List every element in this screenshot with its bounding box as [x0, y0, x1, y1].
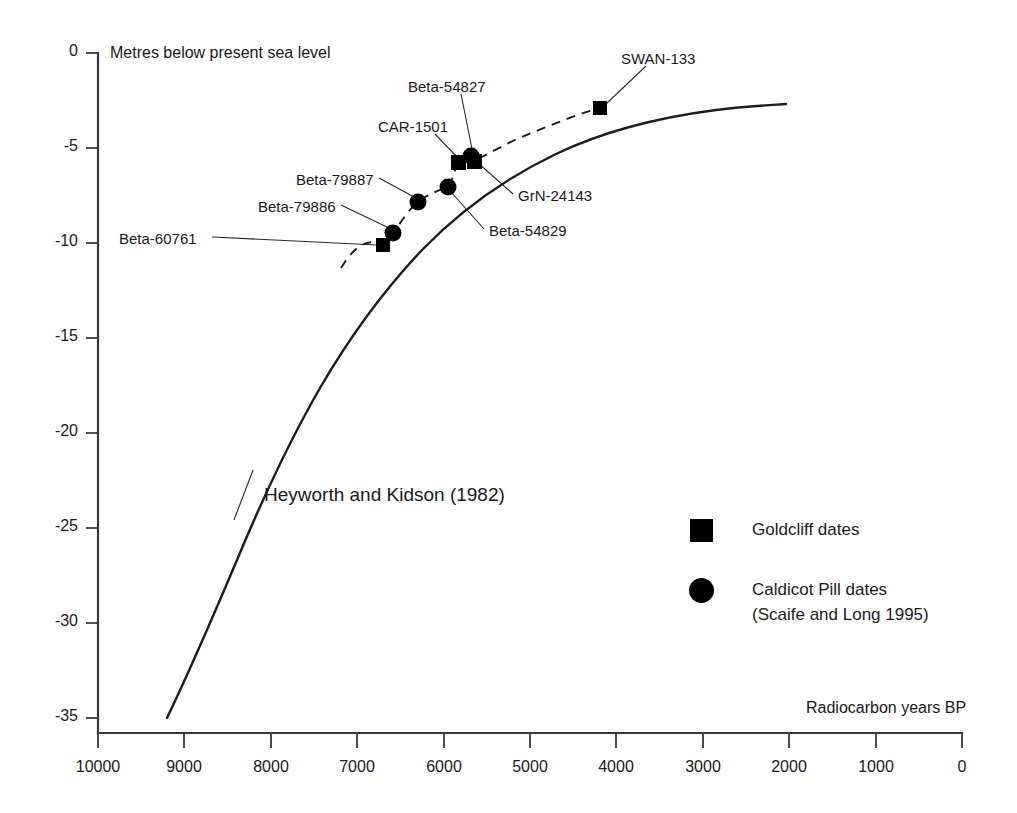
caldicot-pill-markers	[385, 148, 480, 242]
label-grn-24143: GrN-24143	[518, 186, 592, 206]
legend-marker-circle	[689, 578, 714, 603]
x-axis-title: Radiocarbon years BP	[806, 699, 966, 717]
marker-grn-24143	[463, 148, 480, 165]
x-tick-label-8: 2000	[739, 758, 839, 776]
x-tick-marks	[98, 733, 962, 748]
sea-level-curve-figure: 0 -5 -10 -15 -20 -25 -30 -35 10000 9000 …	[0, 0, 1017, 813]
x-tick-label-0: 10000	[48, 758, 148, 776]
x-tick-label-10: 0	[912, 758, 1012, 776]
y-tick-label-2: -10	[22, 232, 78, 250]
label-beta-79886: Beta-79886	[258, 197, 336, 217]
plot-canvas	[0, 0, 1017, 813]
x-tick-label-3: 7000	[307, 758, 407, 776]
label-car-1501: CAR-1501	[378, 117, 448, 137]
x-tick-label-5: 5000	[480, 758, 580, 776]
y-tick-label-4: -20	[22, 422, 78, 440]
y-tick-label-7: -35	[22, 707, 78, 725]
label-beta-60761: Beta-60761	[119, 229, 197, 249]
x-tick-label-4: 6000	[394, 758, 494, 776]
marker-swan-133	[593, 101, 607, 115]
marker-beta-79887	[410, 194, 427, 211]
label-beta-54829: Beta-54829	[489, 221, 567, 241]
y-axis-title: Metres below present sea level	[110, 44, 331, 62]
annotation-heyworth-kidson: Heyworth and Kidson (1982)	[264, 484, 505, 506]
x-tick-label-2: 8000	[221, 758, 321, 776]
marker-beta-79886	[385, 225, 402, 242]
legend-marker-square	[690, 519, 713, 542]
y-tick-label-6: -30	[22, 612, 78, 630]
y-tick-label-5: -25	[22, 517, 78, 535]
x-tick-label-7: 3000	[653, 758, 753, 776]
legend-item-label-caldicot: Caldicot Pill dates (Scaife and Long 199…	[752, 578, 929, 627]
y-tick-label-0: 0	[22, 42, 78, 60]
x-tick-label-6: 4000	[566, 758, 666, 776]
marker-beta-54829	[440, 179, 457, 196]
legend-item-label-goldcliff: Goldcliff dates	[752, 518, 859, 543]
y-tick-marks	[86, 53, 98, 718]
y-tick-label-3: -15	[22, 327, 78, 345]
x-tick-label-9: 1000	[826, 758, 926, 776]
x-tick-label-1: 9000	[134, 758, 234, 776]
marker-beta-60761	[376, 238, 390, 252]
label-beta-79887: Beta-79887	[296, 170, 374, 190]
axis-group	[98, 53, 962, 733]
label-beta-54827: Beta-54827	[408, 77, 486, 97]
label-swan-133: SWAN-133	[621, 49, 695, 69]
y-tick-label-1: -5	[22, 137, 78, 155]
